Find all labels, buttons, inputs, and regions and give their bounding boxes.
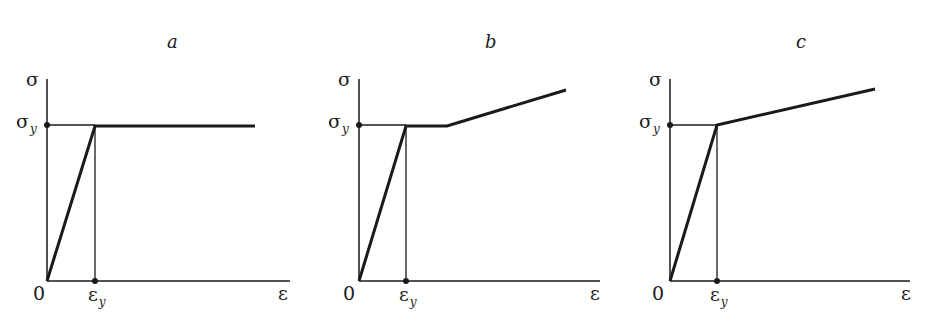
panel-b-y-axis-label: σ xyxy=(338,70,351,89)
panel-c-yield-stress-label: σy xyxy=(639,112,659,131)
stress-strain-curve xyxy=(670,89,875,281)
diagram-canvas xyxy=(0,0,927,332)
yield-stress-marker xyxy=(44,122,50,128)
panel-a-origin-label: 0 xyxy=(33,284,45,303)
panel-a-yield-stress-label: σy xyxy=(16,112,36,131)
panel-c-plot xyxy=(667,79,910,284)
panel-b-title: b xyxy=(485,33,497,51)
panel-a-yield-strain-label: εy xyxy=(88,285,105,304)
panel-c-y-axis-label: σ xyxy=(649,70,662,89)
panel-b-plot xyxy=(356,79,600,284)
panel-a-x-axis-label: ε xyxy=(278,284,288,303)
panel-b-yield-strain-label: εy xyxy=(399,285,416,304)
panel-b-origin-label: 0 xyxy=(343,284,355,303)
panel-c-title: c xyxy=(796,33,806,51)
panel-a-y-axis-label: σ xyxy=(26,70,39,89)
yield-stress-marker xyxy=(356,122,362,128)
panel-c-x-axis-label: ε xyxy=(901,284,911,303)
panel-c-origin-label: 0 xyxy=(652,284,664,303)
panel-b-yield-stress-label: σy xyxy=(328,112,348,131)
panel-a-plot xyxy=(44,79,290,284)
panel-c-yield-strain-label: εy xyxy=(710,285,727,304)
stress-strain-curve xyxy=(359,90,566,281)
panel-b-x-axis-label: ε xyxy=(590,284,600,303)
panel-a-title: a xyxy=(167,33,178,51)
yield-stress-marker xyxy=(667,122,673,128)
stress-strain-curve xyxy=(47,126,255,281)
